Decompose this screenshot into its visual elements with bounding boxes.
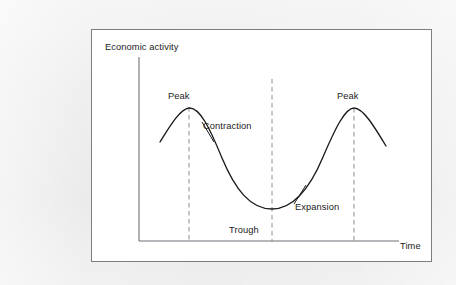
annotation-trough: Trough <box>229 226 259 235</box>
x-axis-label: Time <box>400 242 421 251</box>
figure-frame: Economic activity Time Peak Peak Contrac… <box>91 29 432 262</box>
screenshot-page: Economic activity Time Peak Peak Contrac… <box>0 0 456 285</box>
annotation-contraction: Contraction <box>203 122 252 131</box>
business-cycle-chart <box>92 30 433 263</box>
y-axis-label: Economic activity <box>105 43 179 52</box>
annotation-peak-first: Peak <box>168 92 190 101</box>
business-cycle-curve <box>160 108 386 209</box>
annotation-expansion: Expansion <box>295 203 339 212</box>
annotation-peak-second: Peak <box>337 92 359 101</box>
